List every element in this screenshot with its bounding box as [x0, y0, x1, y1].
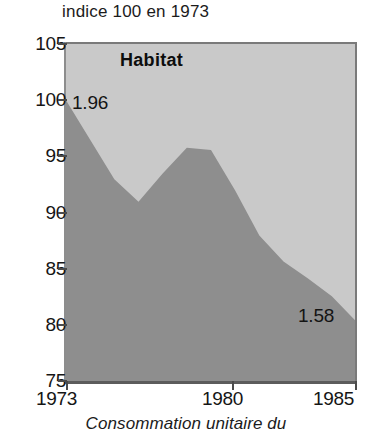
x-tick-label-1985: 1985 — [313, 388, 354, 410]
x-tick-label-1980: 1980 — [202, 388, 243, 410]
plot-area — [66, 44, 356, 382]
x-tick-mark-1985 — [355, 381, 357, 390]
plot-border-top — [66, 42, 357, 44]
y-tick-mark-100 — [58, 99, 67, 101]
y-tick-mark-95 — [58, 155, 67, 157]
series-label-habitat: Habitat — [120, 50, 183, 71]
x-tick-label-1973: 1973 — [36, 388, 77, 410]
x-axis-line — [64, 381, 357, 384]
figure-caption: Consommation unitaire du — [0, 414, 372, 434]
area-series-habitat — [66, 44, 356, 382]
data-label-end: 1.58 — [298, 305, 334, 327]
y-tick-mark-105 — [58, 43, 67, 45]
y-tick-mark-85 — [58, 268, 67, 270]
y-tick-mark-80 — [58, 324, 67, 326]
axis-note: indice 100 en 1973 — [62, 2, 209, 22]
y-tick-mark-90 — [58, 212, 67, 214]
area-polygon — [66, 100, 356, 382]
plot-border-right — [355, 42, 357, 384]
data-label-start: 1.96 — [72, 92, 108, 114]
chart-page: indice 100 en 1973 105 100 95 90 85 80 7… — [0, 0, 372, 442]
y-axis: 105 100 95 90 85 80 75 — [0, 0, 66, 442]
